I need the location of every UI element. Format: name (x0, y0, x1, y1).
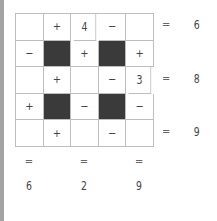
operator-cell: − (99, 120, 127, 147)
row-equals-sign: = (162, 72, 170, 85)
input-cell[interactable] (16, 67, 44, 94)
operator-cell: + (44, 14, 72, 41)
input-cell[interactable] (71, 120, 99, 147)
column-result-value: 9 (131, 178, 147, 193)
input-cell[interactable] (16, 120, 44, 147)
blocked-cell (44, 94, 72, 121)
operator-cell: − (99, 14, 127, 41)
blocked-cell (44, 41, 72, 68)
input-cell[interactable] (71, 67, 99, 94)
column-equals-sign: = (19, 155, 39, 168)
given-number-cell: 4 (74, 14, 96, 41)
blocked-cell (99, 94, 127, 121)
input-cell[interactable] (16, 14, 44, 41)
column-result-value: 6 (21, 178, 37, 193)
operator-cell: + (44, 120, 72, 147)
blocked-cell (99, 41, 127, 68)
puzzle-grid: +4−−+++−3+−−+− (15, 13, 154, 147)
left-edge-strip (0, 0, 4, 221)
operator-cell: + (71, 41, 99, 68)
operator-cell: + (126, 41, 154, 68)
operator-cell: + (16, 94, 44, 121)
column-equals-sign: = (129, 155, 149, 168)
column-equals-sign: = (74, 155, 94, 168)
column-result-value: 2 (76, 178, 92, 193)
operator-cell: − (16, 41, 44, 68)
row-result-value: 8 (194, 71, 200, 86)
operator-cell: + (44, 67, 72, 94)
operator-cell: − (71, 94, 99, 121)
row-result-value: 6 (194, 17, 200, 32)
row-result-value: 9 (194, 124, 200, 139)
given-number-cell: 3 (129, 67, 151, 94)
row-equals-sign: = (162, 125, 170, 138)
operator-cell: − (99, 67, 127, 94)
input-cell[interactable] (126, 120, 154, 147)
row-equals-sign: = (162, 18, 170, 31)
input-cell[interactable] (126, 14, 154, 41)
operator-cell: − (126, 94, 154, 121)
